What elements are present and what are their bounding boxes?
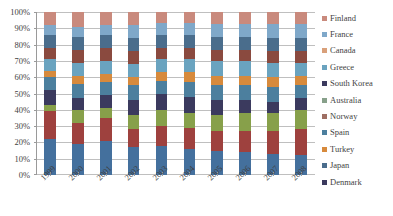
y-axis: 100%90%80%70%60%50%40%30%20%10%0%: [0, 12, 33, 175]
legend-item[interactable]: Japan: [322, 158, 393, 174]
bar-segment: [295, 129, 307, 155]
stacked-bar[interactable]: [211, 12, 223, 175]
bar-segment: [44, 48, 56, 59]
legend-swatch-icon: [322, 180, 327, 185]
y-axis-tick-label: 90%: [14, 24, 30, 33]
y-axis-tick-label: 70%: [14, 57, 30, 66]
bar-segment: [128, 129, 140, 147]
y-axis-tick-label: 10%: [14, 154, 30, 163]
legend-swatch-icon: [322, 147, 327, 152]
bar-segment: [72, 76, 84, 84]
bar-segment: [184, 48, 196, 59]
stacked-bar[interactable]: [128, 12, 140, 175]
bar-segment: [156, 35, 168, 48]
y-axis-tick-label: 40%: [14, 106, 30, 115]
bar-segment: [239, 76, 251, 86]
legend-swatch-icon: [322, 32, 327, 37]
bar-slot: [156, 12, 168, 175]
bar-segment: [295, 24, 307, 39]
bar-segment: [100, 74, 112, 82]
bar-slot: [211, 12, 223, 175]
bar-segment: [267, 113, 279, 131]
bar-segment: [267, 51, 279, 62]
y-axis-tick-label: 20%: [14, 138, 30, 147]
legend-item[interactable]: Canada: [322, 43, 393, 59]
bar-segment: [128, 77, 140, 85]
stacked-bar[interactable]: [72, 12, 84, 175]
bar-segment: [211, 37, 223, 50]
legend-item[interactable]: South Korea: [322, 76, 393, 92]
bar-segment: [239, 50, 251, 61]
bar-segment: [295, 51, 307, 62]
bar-segment: [184, 12, 196, 23]
y-axis-tick-label: 100%: [10, 8, 30, 17]
legend-label: Greece: [330, 63, 354, 72]
bar-segment: [239, 24, 251, 37]
bar-segment: [211, 76, 223, 86]
bar-segment: [100, 82, 112, 95]
bar-segment: [44, 77, 56, 90]
y-axis-tick-label: 30%: [14, 122, 30, 131]
legend-item[interactable]: Finland: [322, 10, 393, 26]
legend-item[interactable]: Turkey: [322, 141, 393, 157]
bar-segment: [239, 85, 251, 100]
bar-segment: [156, 59, 168, 72]
bar-segment: [267, 77, 279, 87]
legend: FinlandFranceCanadaGreeceSouth KoreaAust…: [322, 10, 393, 190]
legend-swatch-icon: [322, 98, 327, 103]
bar-segment: [44, 111, 56, 139]
bar-segment: [100, 95, 112, 108]
stacked-bar[interactable]: [184, 12, 196, 175]
x-axis: 1999200020012002200320042005200620072008: [36, 176, 315, 216]
legend-item[interactable]: Australia: [322, 92, 393, 108]
bar-segment: [44, 12, 56, 25]
bar-segment: [44, 90, 56, 105]
legend-item[interactable]: Spain: [322, 125, 393, 141]
bar-segment: [72, 123, 84, 144]
bar-segment: [295, 98, 307, 109]
bar-segment: [295, 63, 307, 76]
legend-label: Denmark: [330, 178, 362, 187]
bar-segment: [156, 126, 168, 146]
y-axis-tick-label: 60%: [14, 73, 30, 82]
bar-segment: [295, 38, 307, 51]
legend-swatch-icon: [322, 81, 327, 86]
legend-item[interactable]: Greece: [322, 59, 393, 75]
legend-item[interactable]: Denmark: [322, 174, 393, 190]
bar-segment: [100, 108, 112, 118]
legend-swatch-icon: [322, 163, 327, 168]
bar-segment: [239, 12, 251, 23]
bar-segment: [239, 113, 251, 131]
bar-segment: [184, 35, 196, 48]
bar-segment: [295, 110, 307, 130]
bar-segment: [128, 64, 140, 77]
stacked-bar[interactable]: [44, 12, 56, 175]
bar-segment: [267, 131, 279, 154]
bar-slot: [128, 12, 140, 175]
bar-segment: [128, 25, 140, 38]
bar-segment: [72, 27, 84, 37]
y-axis-tick-label: 0%: [19, 171, 30, 180]
legend-label: Norway: [330, 112, 357, 121]
bar-slot: [72, 12, 84, 175]
stacked-bar[interactable]: [100, 12, 112, 175]
bar-segment: [267, 24, 279, 39]
bar-slot: [184, 12, 196, 175]
bar-segment: [239, 61, 251, 76]
stacked-bar[interactable]: [239, 12, 251, 175]
bar-segment: [100, 61, 112, 74]
legend-item[interactable]: France: [322, 26, 393, 42]
bar-segment: [100, 12, 112, 25]
stacked-bar[interactable]: [267, 12, 279, 175]
bar-segment: [100, 48, 112, 61]
bar-segment: [100, 118, 112, 141]
bar-segment: [211, 85, 223, 100]
stacked-bar[interactable]: [156, 12, 168, 175]
bar-segment: [239, 100, 251, 113]
stacked-bar[interactable]: [295, 12, 307, 175]
bar-segment: [239, 37, 251, 50]
legend-item[interactable]: Norway: [322, 108, 393, 124]
bar-series-container: [36, 12, 315, 175]
y-axis-tick-label: 50%: [14, 89, 30, 98]
bar-segment: [156, 48, 168, 59]
